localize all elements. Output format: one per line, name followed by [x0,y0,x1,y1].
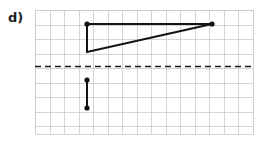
vertex-dot [84,21,89,26]
grid-outer-border [36,11,254,135]
grid-lines [35,10,254,134]
shape-triangle [87,24,212,52]
figure-container: d) [0,0,266,146]
vertex-dot [209,21,214,26]
vertex-dot [84,77,89,82]
graph-paper-canvas [0,0,266,146]
grid-border [36,11,254,135]
vertex-dot [84,105,89,110]
